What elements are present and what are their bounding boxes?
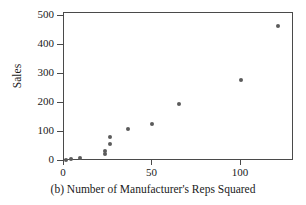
x-axis-tick-label: 0 — [43, 167, 83, 178]
data-point — [150, 122, 154, 126]
data-point — [177, 102, 181, 106]
y-axis-tick-label: 100 — [38, 125, 55, 136]
x-axis-tick — [151, 160, 152, 165]
data-point — [126, 127, 130, 131]
y-axis-tick-label: 0 — [49, 154, 55, 165]
y-axis-label: Sales — [11, 51, 23, 101]
x-axis-tick-label: 50 — [131, 167, 171, 178]
y-axis-tick-label: 500 — [38, 9, 55, 20]
y-axis-tick-label: 300 — [38, 67, 55, 78]
data-point — [239, 78, 243, 82]
data-point — [108, 142, 112, 146]
data-point — [78, 156, 82, 160]
data-point — [64, 158, 68, 162]
data-point — [108, 135, 112, 139]
y-axis-tick-label: 200 — [38, 96, 55, 107]
x-axis-tick — [240, 160, 241, 165]
figure-caption: (b) Number of Manufacturer's Reps Square… — [0, 183, 306, 195]
plot-area — [63, 12, 293, 160]
data-point — [276, 24, 280, 28]
x-axis-tick-label: 100 — [220, 167, 260, 178]
data-points-layer — [64, 13, 292, 159]
y-axis-tick-label: 400 — [38, 38, 55, 49]
figure-scatter-plot: Sales 0100200300400500 050100 (b) Number… — [0, 0, 306, 205]
data-point — [69, 157, 73, 161]
